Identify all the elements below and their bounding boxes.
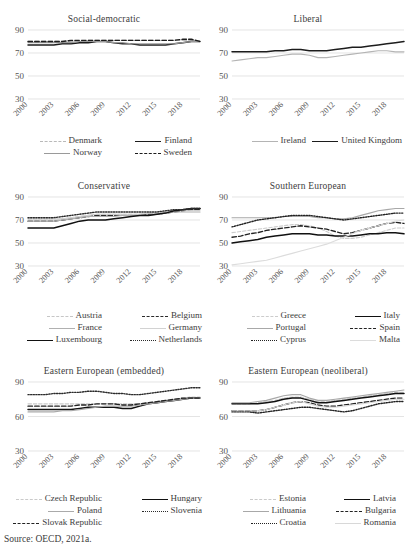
legend-label: Finland [164, 135, 192, 146]
legend-item[interactable]: Portugal [216, 322, 306, 333]
legend-item[interactable]: Belgium [106, 310, 202, 321]
x-axis-tick: 2006 [63, 267, 81, 285]
x-axis-tick-label: 2012 [319, 452, 337, 470]
legend-line-key-icon [335, 519, 361, 527]
chart-title-southern-european: Southern European [206, 181, 410, 191]
legend-item[interactable]: Malta [310, 334, 400, 345]
x-axis-tick-label: 2018 [370, 452, 388, 470]
legend-label: Slovak Republic [42, 517, 102, 528]
legend-label: Sweden [164, 147, 193, 158]
legend-line-key-icon [243, 507, 269, 515]
y-axis-tick-label: 70 [15, 48, 25, 58]
legend-item[interactable]: Latvia [310, 493, 396, 504]
legend-item[interactable]: Luxembourg [6, 334, 102, 345]
legend-item[interactable]: Italy [310, 310, 400, 321]
legend-item[interactable]: Hungary [106, 493, 202, 504]
y-axis-tick-label: 70 [219, 215, 229, 225]
legend-item[interactable]: Cyprus [216, 334, 306, 345]
legend-item[interactable]: Estonia [220, 493, 306, 504]
legend-line-key-icon [251, 519, 277, 527]
legend-label: Denmark [69, 135, 103, 146]
legend-item[interactable]: Bulgaria [310, 505, 396, 516]
y-axis-tick-label: 50 [219, 238, 229, 248]
legend-line-key-icon [355, 312, 381, 320]
legend-line-key-icon [47, 312, 73, 320]
legend-line-key-icon [130, 336, 156, 344]
x-axis-tick-label: 2009 [293, 100, 311, 118]
y-axis-tick-label: 90 [219, 192, 229, 202]
y-axis-tick-label: 50 [15, 238, 25, 248]
x-axis-tick: 2009 [89, 100, 107, 118]
x-axis-tick: 2006 [267, 267, 285, 285]
x-axis-tick: 2003 [241, 267, 259, 285]
legend-item[interactable]: Finland [106, 135, 192, 146]
series-line [28, 388, 200, 395]
legend-item[interactable]: Slovak Republic [6, 517, 102, 528]
legend-line-key-icon [336, 507, 362, 515]
legend-item[interactable]: Lithuania [220, 505, 306, 516]
chart-title-eastern-neoliberal: Eastern European (neoliberal) [206, 366, 410, 376]
legend-label: Greece [281, 310, 306, 321]
chart-svg-liberal: 305070902000200320062009201220152018 [206, 24, 410, 129]
x-axis-tick: 2009 [293, 100, 311, 118]
chart-svg-conservative: 305070902000200320062009201220152018 [2, 191, 206, 296]
legend-item[interactable]: Croatia [220, 517, 306, 528]
legend-line-key-icon [40, 137, 66, 145]
y-axis-tick-label: 90 [15, 25, 25, 35]
x-axis-tick-label: 2018 [166, 267, 184, 285]
x-axis-tick: 2015 [344, 100, 362, 118]
legend-item[interactable]: Sweden [106, 147, 192, 158]
x-axis-tick: 2018 [370, 267, 388, 285]
x-axis-tick: 2018 [370, 100, 388, 118]
legend-label: Estonia [279, 493, 306, 504]
x-axis-tick: 2006 [267, 100, 285, 118]
x-axis-tick: 2003 [241, 100, 259, 118]
legend-line-key-icon [48, 507, 74, 515]
chart-legend-liberal: IrelandUnited Kingdom [214, 135, 402, 146]
legend-item[interactable]: Greece [216, 310, 306, 321]
legend-label: Bulgaria [365, 505, 396, 516]
series-line [232, 220, 404, 265]
legend-line-key-icon [44, 149, 70, 157]
y-axis-tick-label: 70 [15, 215, 25, 225]
figure-panel-grid: Social-democratic 3050709020002003200620… [0, 0, 412, 553]
legend-item[interactable]: Czech Republic [6, 493, 102, 504]
legend-line-key-icon [350, 336, 376, 344]
legend-label: Austria [76, 310, 103, 321]
legend-item[interactable]: France [6, 322, 102, 333]
legend-item[interactable]: Spain [310, 322, 400, 333]
x-axis-tick-label: 2009 [293, 267, 311, 285]
legend-item[interactable]: United Kingdom [310, 135, 402, 146]
legend-item[interactable]: Ireland [214, 135, 306, 146]
chart-legend-social-democratic: DenmarkFinlandNorwaySweden [16, 135, 192, 158]
x-axis-tick: 2018 [166, 452, 184, 470]
legend-item[interactable]: Slovenia [106, 505, 202, 516]
legend-item[interactable]: Denmark [16, 135, 102, 146]
series-line [232, 209, 404, 219]
legend-line-key-icon [135, 137, 161, 145]
x-axis-tick: 2018 [370, 452, 388, 470]
chart-panel-liberal: Liberal 30507090200020032006200920122015… [206, 14, 410, 174]
series-line [232, 233, 404, 243]
legend-label: Netherlands [159, 334, 202, 345]
legend-label: Latvia [373, 493, 396, 504]
legend-label: United Kingdom [341, 135, 402, 146]
legend-item[interactable]: Germany [106, 322, 202, 333]
x-axis-tick-label: 2012 [115, 267, 133, 285]
x-axis-tick: 2012 [115, 100, 133, 118]
x-axis-tick-label: 2015 [344, 100, 362, 118]
legend-item[interactable]: Norway [16, 147, 102, 158]
legend-item[interactable]: Netherlands [106, 334, 202, 345]
legend-item[interactable]: Poland [6, 505, 102, 516]
x-axis-tick: 2006 [267, 452, 285, 470]
x-axis-tick-label: 2006 [63, 267, 81, 285]
legend-item[interactable]: Austria [6, 310, 102, 321]
legend-label: Lithuania [272, 505, 307, 516]
y-axis-tick-label: 50 [15, 71, 25, 81]
y-axis-tick-label: 50 [219, 71, 229, 81]
legend-line-key-icon [350, 324, 376, 332]
x-axis-tick-label: 2006 [267, 267, 285, 285]
legend-item[interactable]: Romania [310, 517, 396, 528]
x-axis-tick: 2015 [140, 267, 158, 285]
series-line [28, 39, 200, 41]
